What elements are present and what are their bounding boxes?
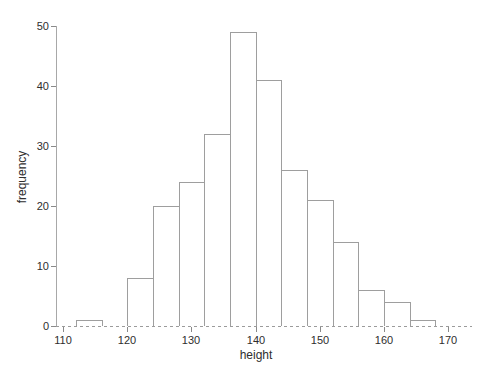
x-tick	[256, 327, 257, 332]
bar	[256, 80, 282, 326]
bar	[76, 320, 103, 326]
bar	[358, 290, 385, 326]
bar	[307, 200, 334, 326]
histogram-chart: frequency 01020304050 110120130140150160…	[0, 0, 485, 382]
bar	[230, 32, 257, 326]
bar	[281, 170, 308, 326]
bar	[384, 302, 411, 326]
x-tick-label: 120	[109, 334, 145, 346]
y-tick-label: 10	[17, 260, 49, 272]
x-tick	[384, 327, 385, 332]
bar	[153, 206, 180, 326]
y-tick-label: 20	[17, 200, 49, 212]
bar	[333, 242, 359, 326]
bar	[204, 134, 231, 326]
bar	[127, 278, 154, 326]
x-tick-label: 160	[366, 334, 402, 346]
x-tick-label: 110	[45, 334, 81, 346]
x-tick-label: 140	[238, 334, 274, 346]
y-tick	[51, 326, 56, 327]
y-tick	[51, 146, 56, 147]
y-axis-line	[56, 26, 57, 327]
y-tick-label: 40	[17, 80, 49, 92]
bar	[179, 182, 205, 326]
x-tick-label: 130	[173, 334, 209, 346]
x-tick-label: 150	[302, 334, 338, 346]
x-tick	[320, 327, 321, 332]
x-tick	[127, 327, 128, 332]
y-axis-title: frequency	[15, 151, 29, 204]
x-tick	[63, 327, 64, 332]
x-tick-label: 170	[430, 334, 466, 346]
y-tick-label: 30	[17, 140, 49, 152]
x-tick	[448, 327, 449, 332]
x-tick	[191, 327, 192, 332]
x-axis-line	[56, 326, 472, 327]
y-tick-label: 50	[17, 20, 49, 32]
y-tick-label: 0	[17, 320, 49, 332]
y-tick	[51, 266, 56, 267]
bar	[410, 320, 436, 326]
y-tick	[51, 206, 56, 207]
y-tick	[51, 86, 56, 87]
y-tick	[51, 26, 56, 27]
x-axis-title: height	[240, 348, 273, 362]
